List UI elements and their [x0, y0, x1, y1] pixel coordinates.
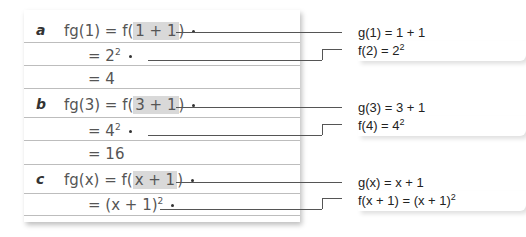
connector-line — [176, 32, 342, 33]
part-a-line-1: a fg(1) = f(1 + 1) — [24, 22, 300, 44]
pointer-dot — [171, 204, 174, 207]
part-b-expression: fg(3) = f(3 + 1) — [64, 96, 195, 114]
part-a-line-3: = 4 — [24, 70, 300, 92]
part-b-line-2: = 42 — [24, 122, 300, 144]
note-part-a-f: f(2) = 22 — [358, 41, 526, 61]
highlighted-inner-value: x + 1 — [133, 171, 178, 189]
connector-line — [176, 182, 342, 183]
rule-line — [24, 193, 300, 194]
part-b-label: b — [36, 96, 46, 112]
part-c-expression: fg(x) = f(x + 1) — [64, 171, 194, 189]
note-part-b-f: f(4) = 42 — [358, 116, 526, 136]
part-a-line-2: = 22 — [24, 47, 300, 69]
connector-line — [160, 209, 322, 210]
connector-line — [322, 198, 342, 199]
connector-line — [148, 60, 322, 61]
connector-line — [322, 49, 342, 50]
worked-solution-sheet: a fg(1) = f(1 + 1) = 22 = 4 b fg(3) = f(… — [24, 10, 300, 222]
part-b-line-3: = 16 — [24, 145, 300, 167]
part-a-expression: fg(1) = f(1 + 1) — [64, 22, 195, 40]
pointer-dot — [129, 130, 132, 133]
connector-line — [148, 135, 322, 136]
connector-elbow — [322, 49, 323, 60]
part-c-line-2: = (x + 1)2 — [24, 196, 300, 218]
pointer-dot — [129, 55, 132, 58]
note-part-c-f: f(x + 1) = (x + 1)2 — [358, 191, 526, 211]
part-c-label: c — [36, 171, 44, 187]
connector-line — [322, 124, 342, 125]
connector-elbow — [322, 124, 323, 135]
connector-elbow — [322, 198, 323, 209]
highlighted-inner-value: 1 + 1 — [133, 22, 178, 40]
connector-line — [176, 107, 342, 108]
part-a-label: a — [36, 22, 45, 38]
highlighted-inner-value: 3 + 1 — [133, 96, 178, 114]
